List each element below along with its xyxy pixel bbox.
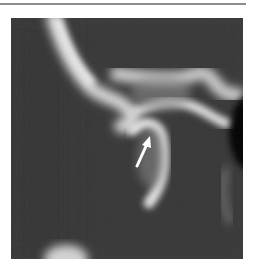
top-rule <box>0 3 246 5</box>
ct-scan-image <box>11 18 243 259</box>
